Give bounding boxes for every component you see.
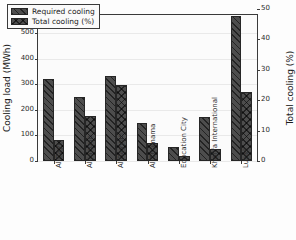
y-tick-right — [257, 131, 260, 132]
y-axis-right-title: Total cooling (%) — [284, 14, 296, 162]
legend-swatch-total-cooling — [11, 18, 28, 25]
chart-legend: Required cooling Total cooling (%) — [7, 4, 100, 29]
y-tick-label-right: 30 — [261, 66, 270, 73]
x-tick-label: Education City — [181, 117, 188, 168]
bar-required-cooling — [137, 123, 148, 161]
y-tick-label-left: 100 — [21, 131, 34, 138]
y-tick-label-right: 40 — [261, 35, 270, 42]
bar-required-cooling — [105, 76, 116, 161]
y-tick-label-right: 10 — [261, 127, 270, 134]
legend-label-total-cooling: Total cooling (%) — [32, 17, 94, 26]
bar-groups — [38, 15, 257, 161]
y-tick-right — [257, 100, 260, 101]
x-tick-label: Lusail — [243, 148, 250, 168]
y-tick-right — [257, 9, 260, 10]
x-tick-label: Al Thumama — [150, 124, 157, 168]
y-tick-label-left: 400 — [21, 55, 34, 62]
y-axis-right-title-text: Total cooling (%) — [285, 51, 295, 126]
y-tick-label-right: 20 — [261, 96, 270, 103]
bar-required-cooling — [231, 16, 242, 161]
legend-swatch-required-cooling — [11, 8, 28, 15]
y-tick-label-right: 0 — [261, 157, 265, 164]
y-tick-right — [257, 161, 260, 162]
y-axis-left-title: Cooling load (MWh) — [1, 14, 13, 162]
legend-label-required-cooling: Required cooling — [32, 7, 95, 16]
bar-required-cooling — [168, 147, 179, 161]
bar-required-cooling — [199, 117, 210, 161]
chart-figure: Cooling load (MWh) Total cooling (%) 010… — [0, 0, 296, 240]
legend-item-total-cooling: Total cooling (%) — [11, 17, 95, 26]
x-tick-label: Khalifa International — [212, 97, 219, 168]
y-tick-right — [257, 39, 260, 40]
bar-required-cooling — [74, 97, 85, 161]
plot-area: 0100200300400500 01020304050 — [37, 14, 258, 162]
x-tick-label: Al Janoub — [87, 135, 94, 168]
x-tick-label: Al Bayt — [56, 143, 63, 168]
y-tick-right — [257, 70, 260, 71]
y-tick-label-left: 500 — [21, 29, 34, 36]
bar-required-cooling — [43, 79, 54, 161]
bar-group — [43, 15, 65, 161]
y-tick-label-right: 50 — [261, 5, 270, 12]
y-tick-label-left: 0 — [30, 157, 34, 164]
x-tick-label: Al Rayyan — [118, 133, 125, 168]
legend-item-required-cooling: Required cooling — [11, 7, 95, 16]
y-tick-left — [35, 161, 38, 162]
bar-group — [231, 15, 253, 161]
y-axis-left-title-text: Cooling load (MWh) — [2, 44, 12, 132]
y-tick-label-left: 200 — [21, 106, 34, 113]
y-tick-label-left: 300 — [21, 80, 34, 87]
